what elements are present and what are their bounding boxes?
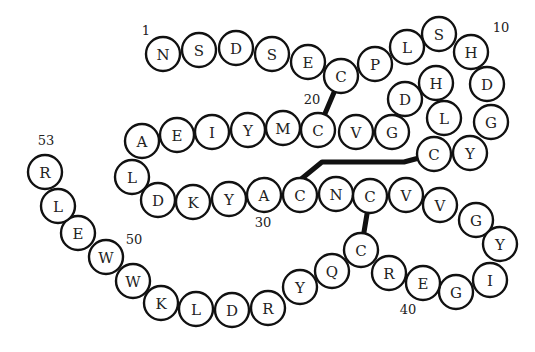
position-label-1: 1 [142,23,150,38]
residue-chain: NSDSECPLSHDGYCLHDGVCMYIEALDKYACNCVVGYIGE… [28,17,517,327]
residue-letter: C [364,188,375,206]
residue-letter: A [258,187,270,205]
residue-letter: L [53,198,63,216]
residue-letter: Y [494,236,506,254]
residue-15: L [427,101,461,135]
residue-letter: D [152,192,164,210]
residue-letter: M [275,120,290,138]
residue-letter: C [312,122,323,140]
residue-2: S [182,33,216,67]
residue-letter: G [386,124,398,142]
residue-17: D [388,82,422,116]
residue-14: C [417,137,451,171]
residue-34: V [389,178,423,212]
residue-letter: D [399,91,411,109]
residue-40: E [406,266,440,300]
residue-letter: C [294,187,305,205]
residue-letter: I [209,124,215,142]
residue-letter: Q [326,263,338,281]
residue-45: R [251,291,285,325]
residue-13: Y [453,136,487,170]
diagram-canvas: NSDSECPLSHDGYCLHDGVCMYIEALDKYACNCVVGYIGE… [0,0,535,352]
residue-37: Y [483,227,517,261]
residue-39: G [439,275,473,309]
residue-letter: H [464,44,477,62]
residue-letter: Y [242,122,254,140]
protein-sequence-diagram: NSDSECPLSHDGYCLHDGVCMYIEALDKYACNCVVGYIGE… [0,0,535,352]
residue-31: C [283,178,317,212]
residue-30: A [247,178,281,212]
residue-letter: E [303,54,314,72]
residue-35: V [423,188,457,222]
residue-28: K [176,185,210,219]
residue-letter: W [125,273,141,291]
residue-letter: H [429,75,442,93]
residue-49: W [116,264,150,298]
residue-letter: Y [464,145,476,163]
residue-53: R [28,155,62,189]
residue-16: H [419,66,453,100]
residue-25: A [125,124,159,158]
residue-letter: C [335,68,346,86]
residue-letter: S [194,42,204,60]
residue-letter: S [434,26,444,44]
residue-letter: K [187,194,199,212]
position-label-20: 20 [304,92,321,107]
residue-letter: P [370,56,380,74]
residue-letter: D [481,76,493,94]
residue-23: I [195,115,229,149]
residue-42: C [344,233,378,267]
residue-41: R [372,256,406,290]
residue-letter: L [127,169,137,187]
residue-10: H [454,35,488,69]
residue-letter: I [487,272,493,290]
residue-letter: W [98,249,114,267]
residue-52: L [41,189,75,223]
residue-letter: A [136,133,148,151]
residue-19: V [339,115,373,149]
residue-44: Y [283,270,317,304]
residue-9: S [422,17,456,51]
residue-3: D [219,31,253,65]
position-label-50: 50 [126,232,143,247]
residue-33: C [353,179,387,213]
residue-letter: R [262,300,274,318]
residue-47: L [179,292,213,326]
residue-letter: D [230,40,242,58]
residue-4: S [255,37,289,71]
residue-18: G [375,115,409,149]
residue-letter: E [73,225,84,243]
residue-12: G [474,105,508,139]
residue-letter: L [191,301,201,319]
residue-32: N [319,177,353,211]
residue-letter: K [155,295,167,313]
disulfide-bond-c14-c31 [300,154,434,180]
residue-letter: V [434,197,447,215]
residue-letter: Y [294,279,306,297]
residue-21: M [266,111,300,145]
position-label-40: 40 [400,302,417,317]
position-label-10: 10 [493,20,510,35]
residue-letter: C [355,242,366,260]
residue-letter: R [383,265,395,283]
residue-letter: L [402,39,412,57]
residue-letter: E [418,275,429,293]
residue-11: D [470,67,504,101]
residue-5: E [291,45,325,79]
residue-7: P [358,47,392,81]
residue-48: K [144,286,178,320]
residue-letter: V [400,187,413,205]
residue-letter: N [329,186,342,204]
residue-letter: D [226,302,238,320]
residue-letter: G [485,114,497,132]
residue-letter: C [428,146,439,164]
residue-43: Q [315,254,349,288]
residue-6: C [324,59,358,93]
residue-22: Y [231,113,265,147]
residue-letter: N [156,46,169,64]
residue-50: W [89,240,123,274]
residue-1: N [146,37,180,71]
residue-letter: R [39,164,51,182]
residue-46: D [215,293,249,327]
residue-27: D [141,183,175,217]
